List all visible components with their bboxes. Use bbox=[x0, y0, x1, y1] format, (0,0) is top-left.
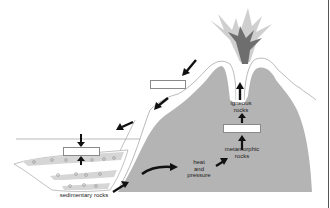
sedimentary-rocks-label: sedimentary rocks bbox=[56, 192, 112, 199]
arrow-erosion-2 bbox=[154, 98, 168, 110]
metamorphic-rocks-label: metamorphic rocks bbox=[222, 146, 262, 159]
rock-cycle-diagram: igneous rocks metamorphic rocks heat and… bbox=[0, 0, 330, 208]
igneous-line-2: rocks bbox=[224, 107, 258, 114]
blank-label-box-deposition bbox=[63, 147, 100, 156]
arrow-erosion-1 bbox=[182, 60, 196, 76]
metamorphic-line-2: rocks bbox=[222, 153, 262, 160]
heat-line-3: pressure bbox=[184, 172, 214, 179]
sedimentary-layers bbox=[14, 150, 128, 192]
diagram-canvas bbox=[0, 0, 330, 208]
eruption-plume bbox=[210, 8, 272, 64]
arrow-deposition-down bbox=[77, 134, 85, 147]
metamorphic-line-1: metamorphic bbox=[222, 146, 262, 153]
heat-and-pressure-label: heat and pressure bbox=[184, 159, 214, 179]
blank-label-box-melting bbox=[223, 124, 261, 133]
blank-label-box-weathering bbox=[150, 80, 186, 89]
igneous-rocks-label: igneous rocks bbox=[224, 100, 258, 113]
mountain-body bbox=[118, 66, 312, 192]
